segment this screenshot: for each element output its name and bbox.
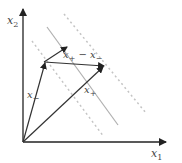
margin-line-upper <box>64 14 146 113</box>
y-axis-label: x2 <box>7 14 18 29</box>
svm-diagram: x2 x1 x− x+ x+ − x− <box>0 0 182 163</box>
difference-label: x+ − x− <box>63 49 102 63</box>
x-plus-vector <box>23 67 103 142</box>
x-axis-label: x1 <box>151 147 162 162</box>
